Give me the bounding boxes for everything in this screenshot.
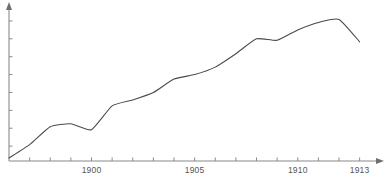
x-axis: 1900190519101913 (9, 158, 384, 176)
line-chart: 1900190519101913 (0, 0, 387, 184)
x-axis-tick-label: 1905 (185, 165, 205, 175)
data-line-series-1 (9, 19, 360, 158)
x-axis-tick-labels: 1900190519101913 (82, 165, 370, 175)
chart-container: 1900190519101913 (0, 0, 387, 184)
data-series-group (9, 19, 360, 158)
x-axis-arrow-icon (376, 158, 384, 164)
y-axis (6, 2, 13, 161)
x-axis-tick-label: 1910 (288, 165, 308, 175)
y-axis-arrow-icon (6, 2, 12, 10)
x-axis-tick-label: 1900 (82, 165, 102, 175)
x-axis-tick-label: 1913 (350, 165, 370, 175)
